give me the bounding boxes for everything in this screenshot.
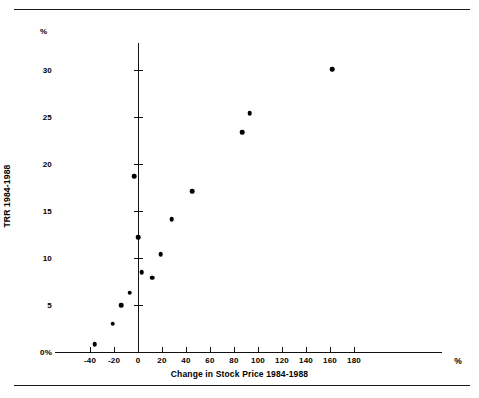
x-tick-label-80: 80 xyxy=(229,356,238,365)
y-tick-label-20: 20 xyxy=(43,160,52,169)
data-point xyxy=(240,130,245,135)
data-point xyxy=(150,275,155,280)
x-axis-title: Change in Stock Price 1984-1988 xyxy=(0,369,479,379)
y-axis-line xyxy=(138,43,139,353)
figure-container: % -40-20020406080100120140160180 0%51015… xyxy=(0,0,479,398)
y-tick-30 xyxy=(134,70,143,71)
y-tick-label-10: 10 xyxy=(43,254,52,263)
y-tick-label-15: 15 xyxy=(43,207,52,216)
x-tick-120 xyxy=(282,347,283,352)
data-point xyxy=(169,217,174,222)
x-tick-140 xyxy=(306,347,307,352)
x-tick-label-120: 120 xyxy=(275,356,289,365)
x-tick-label--20: -20 xyxy=(108,356,120,365)
x-tick-label-160: 160 xyxy=(323,356,337,365)
data-point xyxy=(132,174,137,179)
x-tick-label-100: 100 xyxy=(251,356,265,365)
x-tick-label--40: -40 xyxy=(84,356,96,365)
data-point xyxy=(159,252,164,257)
y-axis-title: TRR 1984-1988 xyxy=(2,164,12,227)
y-tick-label-0%: 0% xyxy=(40,348,52,357)
y-tick-label-5: 5 xyxy=(47,301,52,310)
x-tick-80 xyxy=(234,347,235,352)
x-axis-unit-label: % xyxy=(454,356,462,366)
data-point xyxy=(127,290,132,295)
data-point xyxy=(111,322,116,327)
x-tick-40 xyxy=(186,347,187,352)
data-point xyxy=(247,111,252,116)
y-tick-label-25: 25 xyxy=(43,113,52,122)
x-tick-20 xyxy=(162,347,163,352)
x-tick-label-60: 60 xyxy=(205,356,214,365)
y-tick-label-30: 30 xyxy=(43,66,52,75)
y-tick-10 xyxy=(134,258,143,259)
y-tick-25 xyxy=(134,117,143,118)
x-tick-label-0: 0 xyxy=(136,356,141,365)
x-tick-160 xyxy=(330,347,331,352)
x-axis-line xyxy=(55,352,442,353)
y-tick-5 xyxy=(134,305,143,306)
y-axis-unit-label: % xyxy=(40,27,47,36)
data-point xyxy=(136,235,141,240)
x-tick-label-140: 140 xyxy=(299,356,313,365)
data-point xyxy=(93,342,98,347)
scatter-plot: % -40-20020406080100120140160180 0%51015… xyxy=(0,0,479,398)
x-tick-0 xyxy=(138,347,139,352)
y-tick-15 xyxy=(134,211,143,212)
data-point xyxy=(119,303,124,308)
x-tick-100 xyxy=(258,347,259,352)
data-point xyxy=(190,189,195,194)
x-tick-60 xyxy=(210,347,211,352)
x-tick-180 xyxy=(354,347,355,352)
y-tick-20 xyxy=(134,164,143,165)
x-tick--20 xyxy=(114,347,115,352)
data-point xyxy=(139,270,144,275)
x-tick-label-40: 40 xyxy=(181,356,190,365)
x-axis-left-cap xyxy=(90,347,91,352)
x-tick-label-20: 20 xyxy=(157,356,166,365)
data-point xyxy=(330,67,335,72)
x-tick-label-180: 180 xyxy=(347,356,361,365)
